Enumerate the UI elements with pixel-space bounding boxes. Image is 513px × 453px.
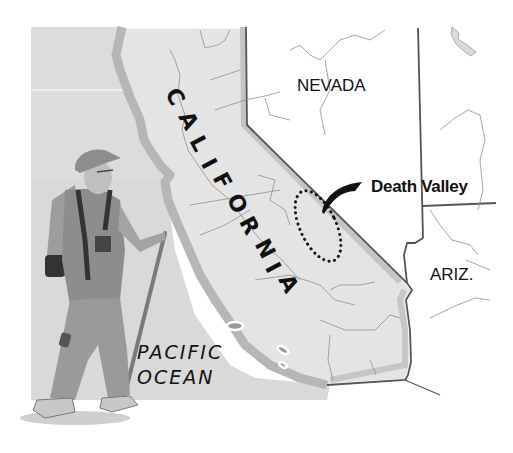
death-valley-label: Death Valley — [371, 177, 468, 197]
utah-arizona-border — [423, 203, 496, 206]
pacific-ocean-line2: OCEAN — [137, 365, 223, 390]
pacific-ocean-label: PACIFIC OCEAN — [137, 340, 223, 390]
pacific-ocean-line1: PACIFIC — [137, 340, 223, 365]
nevada-arizona-border — [418, 28, 423, 238]
nevada-label: NEVADA — [297, 76, 366, 96]
arizona-label: ARIZ. — [430, 265, 473, 285]
